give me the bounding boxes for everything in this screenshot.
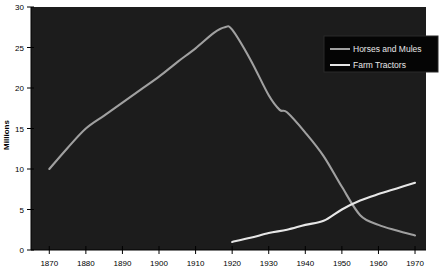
- y-tick-label: 5: [20, 206, 25, 215]
- chart-legend: Horses and MulesFarm Tractors: [324, 36, 438, 72]
- x-tick-label: 1910: [187, 259, 205, 268]
- y-tick-label: 25: [15, 44, 24, 53]
- legend-label: Farm Tractors: [353, 60, 406, 70]
- y-tick-label: 0: [20, 246, 25, 255]
- x-tick-label: 1870: [40, 259, 58, 268]
- x-tick-label: 1920: [223, 259, 241, 268]
- line-chart: 051015202530 187018801890190019101920193…: [0, 0, 441, 273]
- x-tick-label: 1970: [406, 259, 424, 268]
- legend-label: Horses and Mules: [353, 44, 422, 54]
- y-tick-label: 10: [15, 165, 24, 174]
- x-tick-label: 1940: [296, 259, 314, 268]
- chart-container: 051015202530 187018801890190019101920193…: [0, 0, 441, 273]
- x-tick-label: 1930: [260, 259, 278, 268]
- y-axis-title: Millions: [2, 120, 11, 150]
- x-tick-label: 1950: [333, 259, 351, 268]
- y-tick-label: 30: [15, 3, 24, 12]
- y-tick-label: 15: [15, 125, 24, 134]
- x-tick-label: 1960: [370, 259, 388, 268]
- x-tick-label: 1900: [150, 259, 168, 268]
- x-tick-label: 1880: [77, 259, 95, 268]
- x-tick-label: 1890: [114, 259, 132, 268]
- y-tick-label: 20: [15, 84, 24, 93]
